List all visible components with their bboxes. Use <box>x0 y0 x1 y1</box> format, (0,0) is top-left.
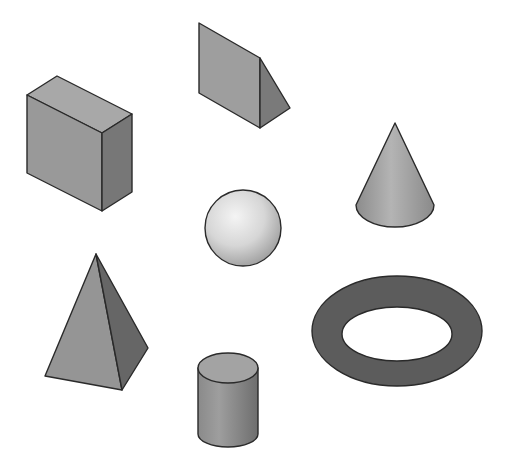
cylinder-top-face <box>198 353 258 383</box>
torus-ring <box>312 276 482 386</box>
cone-shape: Cone <box>356 123 434 227</box>
pyramid-shape: Pyramid <box>45 254 148 390</box>
box-shape: Box <box>27 76 132 211</box>
sphere-surface <box>205 190 281 266</box>
cone-surface <box>356 123 434 227</box>
wedge-shape: Wedge <box>199 23 290 128</box>
solids-diagram: Box Wedge Cone Sphere Pyramid Cylinder T… <box>0 0 509 472</box>
torus-shape: Torus <box>312 276 482 386</box>
sphere-shape: Sphere <box>205 190 281 266</box>
wedge-front-face <box>199 23 260 128</box>
cylinder-shape: Cylinder <box>198 353 258 447</box>
wedge-side-face <box>260 58 290 128</box>
